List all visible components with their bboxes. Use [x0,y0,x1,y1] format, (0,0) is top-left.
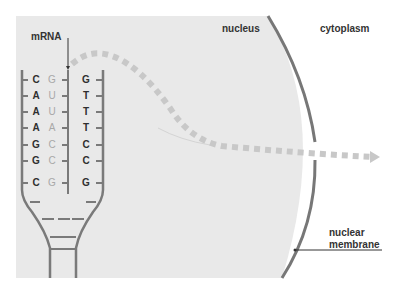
mrna-base: G [47,178,57,188]
template-base: A [31,91,41,101]
mrna-base: G [47,75,57,85]
template-base: C [31,178,41,188]
mrna-base: C [47,156,57,166]
nuclear-membrane-label-line2: membrane [329,240,380,250]
nuclear-membrane-label-line1: nuclear [329,228,365,238]
nucleus-label: nucleus [222,24,260,34]
template-base: G [31,156,41,166]
mrna-base: U [47,91,57,101]
coding-base: T [81,123,91,133]
coding-base: T [81,91,91,101]
coding-base: T [81,107,91,117]
coding-base: G [81,178,91,188]
coding-base: G [81,75,91,85]
template-base: A [31,123,41,133]
cytoplasm-label: cytoplasm [320,24,369,34]
coding-base: C [81,140,91,150]
mrna-label: mRNA [31,32,62,42]
mrna-base: U [47,107,57,117]
membrane-pointer-dot [294,249,297,252]
mrna-base: A [47,123,57,133]
coding-base: C [81,156,91,166]
template-base: A [31,107,41,117]
mrna-export-arrowhead [370,151,380,163]
template-base: G [31,140,41,150]
template-base: C [31,75,41,85]
mrna-base: C [47,140,57,150]
